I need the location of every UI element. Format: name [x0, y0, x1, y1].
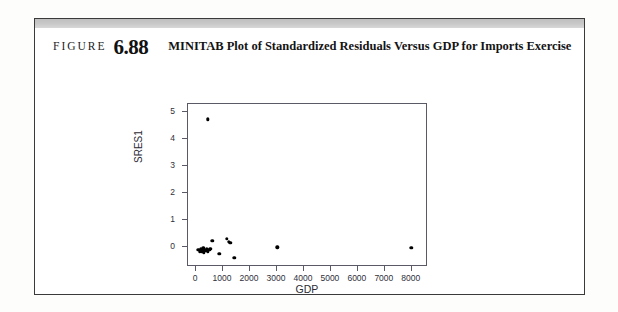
scanned-page: FIGURE 6.88 MINITAB Plot of Standardized… [0, 0, 618, 312]
x-axis-tick [222, 266, 223, 271]
x-axis-label: GDP [187, 283, 427, 295]
data-point [206, 117, 209, 120]
data-point [211, 239, 214, 242]
x-axis-tick [384, 266, 385, 271]
plot-area [187, 103, 427, 266]
figure-caption: FIGURE 6.88 MINITAB Plot of Standardized… [35, 28, 584, 64]
figure-header-band [35, 19, 584, 28]
figure-title: MINITAB Plot of Standardized Residuals V… [168, 39, 571, 54]
x-axis-tick [303, 266, 304, 271]
data-point [410, 246, 413, 249]
figure-label: FIGURE [53, 40, 107, 52]
y-axis-tick-label: 1 [149, 214, 175, 224]
x-axis-tick [249, 266, 250, 271]
x-axis-tick-label: 8000 [394, 273, 428, 283]
data-point [233, 256, 236, 259]
y-axis-tick-label: 5 [149, 106, 175, 116]
scatter-chart: SRES1 012345 010002000300040005000600070… [135, 67, 465, 289]
x-axis-tick [411, 266, 412, 271]
y-axis-tick-label: 3 [149, 160, 175, 170]
data-point [276, 246, 279, 249]
data-point [218, 252, 221, 255]
y-axis-tick-label: 0 [149, 241, 175, 251]
data-point [228, 241, 231, 244]
figure-number: 6.88 [114, 35, 149, 60]
x-axis-tick [357, 266, 358, 271]
x-axis-tick [330, 266, 331, 271]
y-axis-tick-label: 2 [149, 187, 175, 197]
figure-box: FIGURE 6.88 MINITAB Plot of Standardized… [34, 18, 585, 295]
y-axis-label: SRES1 [133, 130, 144, 163]
data-point [208, 247, 211, 250]
x-axis-tick [276, 266, 277, 271]
x-axis-tick [195, 266, 196, 271]
y-axis-tick-label: 4 [149, 133, 175, 143]
